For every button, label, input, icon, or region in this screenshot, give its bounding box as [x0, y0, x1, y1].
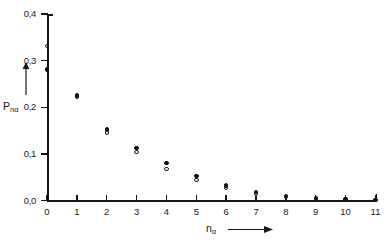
x-axis-tick-label: 10: [337, 206, 355, 217]
y-axis-arrow-icon: [20, 62, 32, 96]
y-axis-tick: [41, 60, 48, 61]
x-axis-tick-label: 3: [128, 206, 146, 217]
figure-scatter-plot: 0,00,10,20,30,4 01234567891011 Pnα nα: [0, 0, 391, 242]
y-axis-tick-label: 0,0: [8, 195, 36, 206]
x-axis-line: [47, 200, 377, 202]
plot-area: 0,00,10,20,30,4 01234567891011 Pnα nα: [0, 0, 391, 242]
data-point-open: [343, 197, 347, 201]
x-axis-title: nα: [206, 222, 216, 236]
data-point-open: [254, 191, 258, 195]
y-axis-title: Pnα: [3, 100, 19, 114]
x-axis-tick-label: 5: [187, 206, 205, 217]
x-axis-tick-label: 1: [68, 206, 86, 217]
data-point-open: [194, 178, 198, 182]
x-axis-tick: [225, 195, 226, 201]
data-point-open: [164, 167, 168, 171]
data-point-filled: [164, 161, 168, 165]
x-axis-tick: [106, 195, 107, 201]
y-axis-title-sub: nα: [10, 105, 19, 114]
y-axis-tick-label: 0,1: [8, 148, 36, 159]
x-axis-tick-label: 2: [98, 206, 116, 217]
y-axis-top-cap: [47, 14, 53, 16]
y-axis-tick: [41, 107, 48, 108]
data-point-open: [373, 198, 377, 202]
y-axis-title-main: P: [3, 100, 10, 112]
x-axis-tick: [255, 195, 256, 201]
x-axis-tick-label: 6: [217, 206, 235, 217]
x-axis-tick-label: 0: [38, 206, 56, 217]
data-point-filled: [45, 67, 49, 71]
x-axis-arrow-icon: [228, 224, 274, 235]
data-point-open: [75, 95, 79, 99]
data-point-open: [224, 186, 228, 190]
y-axis-tick: [41, 13, 48, 14]
x-axis-tick-label: 9: [307, 206, 325, 217]
x-axis-title-sub: α: [212, 227, 216, 236]
x-axis-tick: [76, 195, 77, 201]
data-point-open: [284, 195, 288, 199]
data-point-open: [314, 196, 318, 200]
x-axis-tick: [196, 195, 197, 201]
data-point-open: [134, 150, 138, 154]
x-axis-tick-label: 7: [247, 206, 265, 217]
x-axis-tick: [46, 195, 47, 201]
data-point-open: [45, 44, 49, 48]
x-axis-tick: [136, 195, 137, 201]
x-axis-tick-label: 11: [367, 206, 385, 217]
y-axis-tick: [41, 153, 48, 154]
x-axis-tick-label: 8: [277, 206, 295, 217]
data-point-open: [105, 130, 109, 134]
x-axis-tick-label: 4: [157, 206, 175, 217]
x-axis-tick: [166, 195, 167, 201]
y-axis-tick-label: 0,4: [8, 8, 36, 19]
